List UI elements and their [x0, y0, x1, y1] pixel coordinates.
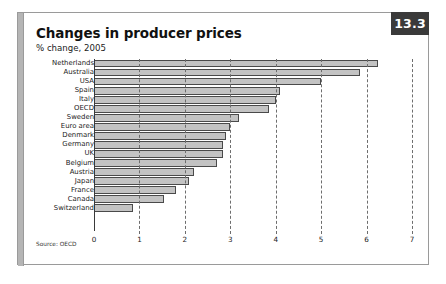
bar: [94, 105, 269, 113]
bar-category-label: Austria: [0, 168, 94, 177]
bar: [94, 69, 360, 77]
bar-row: Netherlands: [36, 59, 416, 68]
bar-category-label: OECD: [0, 104, 94, 113]
bar-track: [94, 105, 412, 113]
bar: [94, 168, 194, 176]
bar-track: [94, 204, 412, 212]
bar-row: USA: [36, 77, 416, 86]
bar: [94, 150, 223, 158]
source-note: Source: OECD: [36, 241, 76, 247]
chart-subtitle: % change, 2005: [36, 43, 106, 53]
bar-row: OECD: [36, 104, 416, 113]
bar-track: [94, 177, 412, 185]
bar-track: [94, 60, 412, 68]
bar: [94, 123, 230, 131]
bar-track: [94, 150, 412, 158]
bar-category-label: Netherlands: [0, 59, 94, 68]
bar-row: Switzerland: [36, 204, 416, 213]
bar-category-label: Japan: [0, 177, 94, 186]
bar: [94, 96, 276, 104]
bar-row: Euro area: [36, 122, 416, 131]
bar-category-label: UK: [0, 149, 94, 158]
bar-category-label: Germany: [0, 140, 94, 149]
x-axis-tick-label: 4: [264, 235, 288, 244]
bar-category-label: France: [0, 186, 94, 195]
bar-track: [94, 96, 412, 104]
bar-row: Spain: [36, 86, 416, 95]
bar: [94, 87, 280, 95]
bar-track: [94, 123, 412, 131]
page-title: Changes in producer prices: [36, 25, 242, 41]
bar: [94, 78, 321, 86]
bar-category-label: Belgium: [0, 159, 94, 168]
bar-track: [94, 114, 412, 122]
bar-category-label: Switzerland: [0, 204, 94, 213]
bar-row: Australia: [36, 68, 416, 77]
bar-row: Germany: [36, 140, 416, 149]
bars-container: NetherlandsAustraliaUSASpainItalyOECDSwe…: [36, 59, 416, 213]
bar-category-label: USA: [0, 77, 94, 86]
bar: [94, 141, 223, 149]
bar-row: Sweden: [36, 113, 416, 122]
bar-row: UK: [36, 149, 416, 158]
bar: [94, 204, 133, 212]
bar-category-label: Canada: [0, 195, 94, 204]
bar-row: Austria: [36, 168, 416, 177]
x-axis-tick-label: 5: [309, 235, 333, 244]
bar: [94, 177, 189, 185]
bar-row: France: [36, 186, 416, 195]
bar: [94, 186, 176, 194]
bar-track: [94, 87, 412, 95]
bar: [94, 60, 378, 68]
bar-track: [94, 195, 412, 203]
bar-row: Japan: [36, 177, 416, 186]
bar: [94, 159, 217, 167]
bar-category-label: Euro area: [0, 122, 94, 131]
x-axis-tick-labels: 01234567: [94, 235, 412, 249]
plot-area: NetherlandsAustraliaUSASpainItalyOECDSwe…: [36, 59, 416, 234]
bar-row: Canada: [36, 195, 416, 204]
bar-track: [94, 168, 412, 176]
bar-track: [94, 78, 412, 86]
bar: [94, 195, 164, 203]
bar-category-label: Italy: [0, 95, 94, 104]
bar-track: [94, 69, 412, 77]
chart-number-badge: 13.3: [391, 12, 429, 35]
x-axis-tick-label: 6: [355, 235, 379, 244]
bar: [94, 132, 226, 140]
bar-row: Denmark: [36, 131, 416, 140]
bar-track: [94, 186, 412, 194]
bar-track: [94, 159, 412, 167]
x-axis-tick-label: 0: [82, 235, 106, 244]
bar-category-label: Denmark: [0, 131, 94, 140]
bar-track: [94, 132, 412, 140]
x-axis-tick-label: 1: [127, 235, 151, 244]
x-axis-tick-label: 3: [218, 235, 242, 244]
bar-category-label: Spain: [0, 86, 94, 95]
bar-category-label: Sweden: [0, 113, 94, 122]
bar-track: [94, 141, 412, 149]
x-axis-tick-label: 7: [400, 235, 424, 244]
bar-row: Italy: [36, 95, 416, 104]
bar-category-label: Australia: [0, 68, 94, 77]
bar: [94, 114, 239, 122]
chart-panel: 13.3 Changes in producer prices % change…: [17, 12, 429, 265]
bar-row: Belgium: [36, 159, 416, 168]
x-axis-tick-label: 2: [173, 235, 197, 244]
